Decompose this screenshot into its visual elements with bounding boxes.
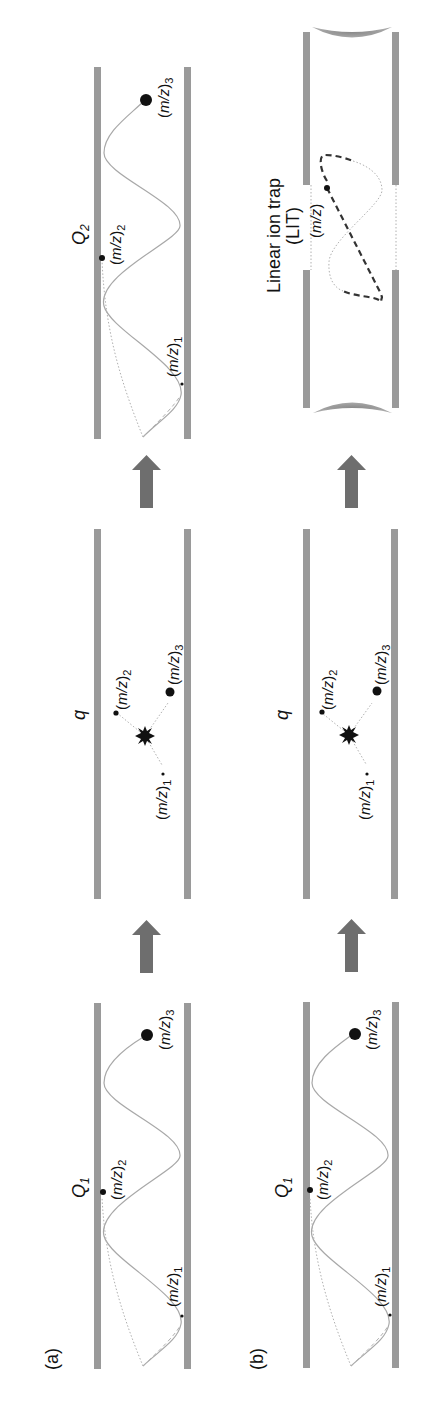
ion-mz3 <box>166 688 175 697</box>
collision-burst-icon <box>135 726 155 746</box>
trajectory-mz1 <box>351 1326 388 1366</box>
rod-upper <box>94 1003 101 1369</box>
ion-mz2 <box>99 255 105 261</box>
arrow-up-icon <box>132 920 161 973</box>
ion-mz1 <box>161 772 164 775</box>
stage-title-Q1: Q1 <box>272 1177 295 1198</box>
tandem-ms-diagram: (a) (b) Q1 q Q2 Q1 q Linear ion trap (LI… <box>0 0 422 1427</box>
rod-lower <box>392 1002 399 1368</box>
ion-mz3 <box>140 94 152 106</box>
ion-mz2 <box>100 1189 106 1195</box>
collision-burst-icon <box>339 725 359 745</box>
ion-mz1 <box>365 772 368 775</box>
ion-mz2 <box>307 1187 313 1193</box>
rod-lower-back <box>392 32 399 185</box>
label-mz3: (m/z)3 <box>363 1010 383 1050</box>
label-mz2: (m/z)2 <box>107 225 127 265</box>
rod-lower-front <box>392 270 399 408</box>
lit-abbr: (LIT) <box>283 207 303 245</box>
stage-title-q: q <box>272 710 292 720</box>
label-mz1: (m/z)1 <box>164 1267 184 1307</box>
end-cap-bottom <box>313 403 392 414</box>
trajectory-lit-a <box>327 188 382 302</box>
label-mz2: (m/z)2 <box>113 670 133 710</box>
rod-upper <box>94 67 101 439</box>
rod-lower <box>184 67 191 439</box>
ion-mz1 <box>180 1314 183 1317</box>
ion-mz2 <box>113 710 118 715</box>
panel-b-label: (b) <box>247 1348 267 1370</box>
rod-upper <box>303 529 310 899</box>
trajectory-mz2 <box>102 1197 143 1366</box>
ion-mz3 <box>373 687 382 696</box>
panel-b-stage-q <box>303 529 398 899</box>
label-mz2: (m/z)2 <box>319 670 339 710</box>
ion-mz3 <box>141 1029 153 1041</box>
rod-lower <box>184 529 191 899</box>
ion-mz1 <box>388 1313 391 1316</box>
arrow-up-icon <box>132 455 161 508</box>
trajectory-mz1 <box>143 396 180 437</box>
trajectory-mz2 <box>102 260 143 437</box>
ion-mz1 <box>180 382 183 385</box>
label-mz1: (m/z)1 <box>372 1267 392 1307</box>
label-mz: (m/z) <box>307 204 324 238</box>
label-mz3: (m/z)3 <box>155 78 175 118</box>
stage-title-Q2: Q2 <box>69 224 92 245</box>
label-mz1: (m/z)1 <box>356 780 376 820</box>
label-mz3: (m/z)3 <box>372 645 392 685</box>
trajectory-mz3 <box>103 1036 181 1366</box>
label-mz2: (m/z)2 <box>108 1160 128 1200</box>
ion-mz3 <box>349 1028 361 1040</box>
label-mz3: (m/z)3 <box>165 645 185 685</box>
trajectory-lit-c <box>329 161 382 291</box>
stage-title-q: q <box>69 710 89 720</box>
rod-upper <box>94 529 101 899</box>
rod-upper-back <box>303 32 310 185</box>
label-mz1: (m/z)1 <box>153 780 173 820</box>
trajectory-mz1 <box>143 1326 180 1366</box>
arrow-up-icon <box>337 919 366 972</box>
ion-mz <box>324 185 330 191</box>
label-mz1: (m/z)1 <box>164 337 184 377</box>
trajectory-mz3 <box>103 100 181 437</box>
label-mz2: (m/z)2 <box>314 1160 334 1200</box>
trajectory-lit-b <box>321 155 353 181</box>
panel-a-label: (a) <box>42 1348 62 1370</box>
trajectory-mz2 <box>310 1197 351 1366</box>
label-mz3: (m/z)3 <box>156 1010 176 1050</box>
panel-a-stage-q <box>94 529 191 899</box>
arrow-up-icon <box>337 455 366 508</box>
rod-upper <box>303 1002 310 1368</box>
rod-lower <box>391 529 398 899</box>
end-cap-top <box>312 27 392 38</box>
rod-lower <box>184 1003 191 1369</box>
lit-title: Linear ion trap <box>264 178 284 293</box>
rod-upper-front <box>303 270 310 408</box>
stage-title-Q1: Q1 <box>69 1177 92 1198</box>
